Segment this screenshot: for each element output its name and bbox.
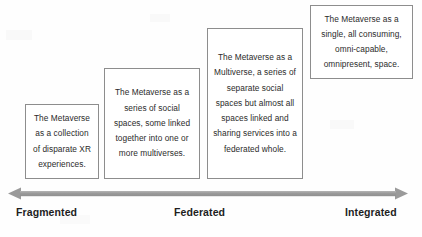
stage-box-text: The Metaverse as a series of social spac… — [110, 85, 194, 161]
stage-box-linked-spaces: The Metaverse as a series of social spac… — [104, 68, 200, 179]
stage-box-integrated: The Metaverse as a single, all consuming… — [310, 5, 413, 79]
scan-artifact — [6, 30, 32, 40]
stage-box-text: The Metaverse as a single, all consuming… — [316, 12, 407, 73]
axis-label-fragmented: Fragmented — [16, 206, 77, 218]
stage-box-text: The Metaverse as a collection of dispara… — [31, 111, 93, 172]
double-headed-arrow-icon — [8, 185, 408, 202]
axis-label-integrated: Integrated — [345, 206, 397, 218]
scan-artifact — [150, 14, 170, 22]
stage-box-text: The Metaverse as a Multiverse, a series … — [213, 50, 297, 156]
stage-box-multiverse: The Metaverse as a Multiverse, a series … — [207, 28, 303, 179]
metaverse-continuum-diagram: The Metaverse as a collection of dispara… — [0, 0, 422, 237]
stage-box-fragmented: The Metaverse as a collection of dispara… — [25, 104, 99, 179]
scan-artifact — [330, 120, 354, 129]
axis-label-federated: Federated — [174, 206, 225, 218]
